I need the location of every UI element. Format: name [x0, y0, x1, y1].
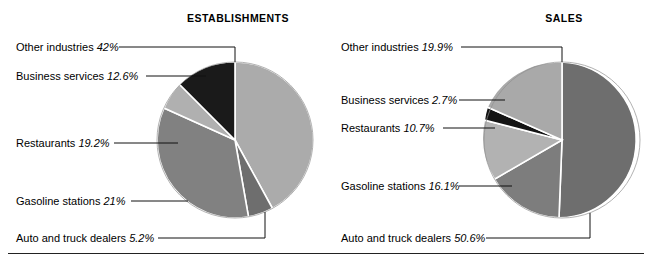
label-right-restaurants-name: Restaurants	[341, 122, 400, 134]
label-right-gasoline-stations-value: 16.1%	[428, 180, 459, 192]
label-right-auto-truck-dealers: Auto and truck dealers 50.6%	[341, 232, 485, 244]
label-left-auto-truck-dealers-name: Auto and truck dealers	[16, 232, 126, 244]
leader-left-other-industries	[119, 47, 235, 62]
label-left-gasoline-stations-value: 21%	[103, 195, 125, 207]
label-left-other-industries: Other industries 42%	[16, 41, 119, 53]
pie-chart-figure: ESTABLISHMENTS SALES	[0, 0, 652, 261]
label-left-other-industries-value: 42%	[97, 41, 119, 53]
label-left-business-services: Business services 12.6%	[16, 70, 138, 82]
label-left-gasoline-stations: Gasoline stations 21%	[16, 195, 125, 207]
label-left-business-services-value: 12.6%	[107, 70, 138, 82]
label-right-auto-truck-dealers-value: 50.6%	[454, 232, 485, 244]
right-pie	[482, 62, 640, 218]
label-left-business-services-name: Business services	[16, 70, 104, 82]
label-left-restaurants-value: 19.2%	[78, 137, 109, 149]
label-right-restaurants-value: 10.7%	[403, 122, 434, 134]
label-left-auto-truck-dealers: Auto and truck dealers 5.2%	[16, 232, 154, 244]
label-right-business-services-name: Business services	[341, 94, 429, 106]
label-left-restaurants-name: Restaurants	[16, 137, 75, 149]
label-right-other-industries: Other industries 19.9%	[341, 41, 453, 53]
label-left-restaurants: Restaurants 19.2%	[16, 137, 110, 149]
label-right-other-industries-name: Other industries	[341, 41, 419, 53]
label-right-auto-truck-dealers-name: Auto and truck dealers	[341, 232, 451, 244]
leader-right-other-industries	[461, 47, 562, 62]
label-right-restaurants: Restaurants 10.7%	[341, 122, 435, 134]
label-left-auto-truck-dealers-value: 5.2%	[129, 232, 154, 244]
label-left-other-industries-name: Other industries	[16, 41, 94, 53]
label-right-gasoline-stations-name: Gasoline stations	[341, 180, 425, 192]
label-right-other-industries-value: 19.9%	[422, 41, 453, 53]
label-right-gasoline-stations: Gasoline stations 16.1%	[341, 180, 460, 192]
left-pie	[157, 62, 313, 218]
label-left-gasoline-stations-name: Gasoline stations	[16, 195, 100, 207]
chart-canvas	[0, 0, 652, 261]
label-right-business-services: Business services 2.7%	[341, 94, 457, 106]
label-right-business-services-value: 2.7%	[432, 94, 457, 106]
right-slice-auto-truck-dealers	[559, 62, 636, 218]
